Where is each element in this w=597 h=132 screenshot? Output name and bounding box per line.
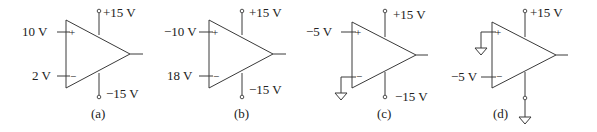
positive-supply-label: +15 V bbox=[393, 7, 426, 22]
ground-icon bbox=[475, 48, 487, 55]
ground-icon bbox=[519, 117, 531, 124]
minus-sign: − bbox=[496, 70, 502, 82]
minus-sign: − bbox=[356, 70, 362, 82]
negative-supply-label: −15 V bbox=[395, 89, 428, 104]
op-amp-circuit-b: −10 V + 18 V − +15 V −15 V (b) bbox=[164, 5, 286, 121]
negative-supply-label: −15 V bbox=[106, 86, 139, 101]
caption-b: (b) bbox=[234, 106, 249, 121]
noninverting-input-label: −5 V bbox=[306, 24, 333, 39]
inverting-input-label: 2 V bbox=[32, 68, 52, 83]
minus-sign: − bbox=[70, 70, 76, 82]
op-amp-circuit-c: −5 V + − +15 V −15 V (c) bbox=[306, 7, 428, 121]
noninverting-input-label: 10 V bbox=[22, 24, 48, 39]
plus-sign: + bbox=[212, 26, 218, 38]
plus-sign: + bbox=[69, 26, 75, 38]
positive-supply-label: +15 V bbox=[249, 5, 282, 20]
noninverting-input-label: −10 V bbox=[164, 24, 197, 39]
positive-supply-label: +15 V bbox=[530, 5, 563, 20]
ground-icon bbox=[335, 93, 347, 100]
terminal-icon bbox=[383, 9, 387, 13]
minus-sign: − bbox=[213, 70, 219, 82]
terminal-icon bbox=[523, 9, 527, 13]
terminal-icon bbox=[523, 96, 527, 100]
op-amp-circuit-a: 10 V + 2 V − +15 V −15 V (a) bbox=[22, 5, 143, 121]
positive-supply-label: +15 V bbox=[103, 5, 136, 20]
caption-d: (d) bbox=[493, 106, 508, 121]
caption-a: (a) bbox=[91, 106, 105, 121]
inverting-input-label: 18 V bbox=[167, 68, 193, 83]
terminal-icon bbox=[97, 95, 101, 99]
caption-c: (c) bbox=[377, 106, 391, 121]
terminal-icon bbox=[97, 9, 101, 13]
op-amp-figure: 10 V + 2 V − +15 V −15 V (a) −10 V + 18 … bbox=[0, 0, 597, 132]
negative-supply-label: −15 V bbox=[249, 82, 282, 97]
op-amp-circuit-d: + −5 V − +15 V (d) bbox=[451, 5, 568, 124]
inverting-input-label: −5 V bbox=[451, 69, 478, 84]
terminal-icon bbox=[240, 9, 244, 13]
terminal-icon bbox=[383, 95, 387, 99]
plus-sign: + bbox=[355, 26, 361, 38]
plus-sign: + bbox=[495, 26, 501, 38]
terminal-icon bbox=[240, 95, 244, 99]
